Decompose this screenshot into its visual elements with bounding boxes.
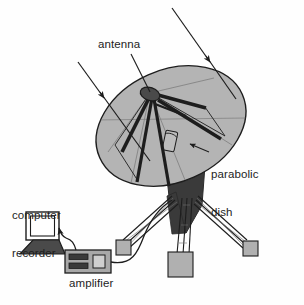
incoming-ray-right-arrow bbox=[172, 8, 210, 62]
amplifier-slot-2 bbox=[69, 263, 88, 269]
cable-amplifier-to-computer bbox=[66, 238, 76, 250]
label-computer-line1: computer bbox=[12, 209, 61, 222]
label-parabolic-dish-line1: parabolic bbox=[211, 168, 259, 181]
label-computer-recorder: computer recorder bbox=[12, 184, 61, 284]
label-amplifier: amplifier bbox=[69, 277, 113, 290]
amplifier-slot-1 bbox=[69, 254, 88, 260]
amplifier-knob bbox=[93, 255, 105, 268]
label-parabolic-dish: parabolic dish bbox=[211, 143, 259, 243]
label-antenna: antenna bbox=[98, 38, 140, 51]
label-computer-line2: recorder bbox=[12, 247, 61, 260]
label-parabolic-dish-line2: dish bbox=[211, 206, 259, 219]
foot-pad-right bbox=[243, 241, 258, 256]
amplifier-unit bbox=[65, 250, 111, 273]
foot-pad-left bbox=[116, 240, 131, 255]
foot-pad-center bbox=[168, 252, 193, 277]
radio-telescope-diagram: antenna parabolic dish computer recorder… bbox=[0, 0, 304, 305]
